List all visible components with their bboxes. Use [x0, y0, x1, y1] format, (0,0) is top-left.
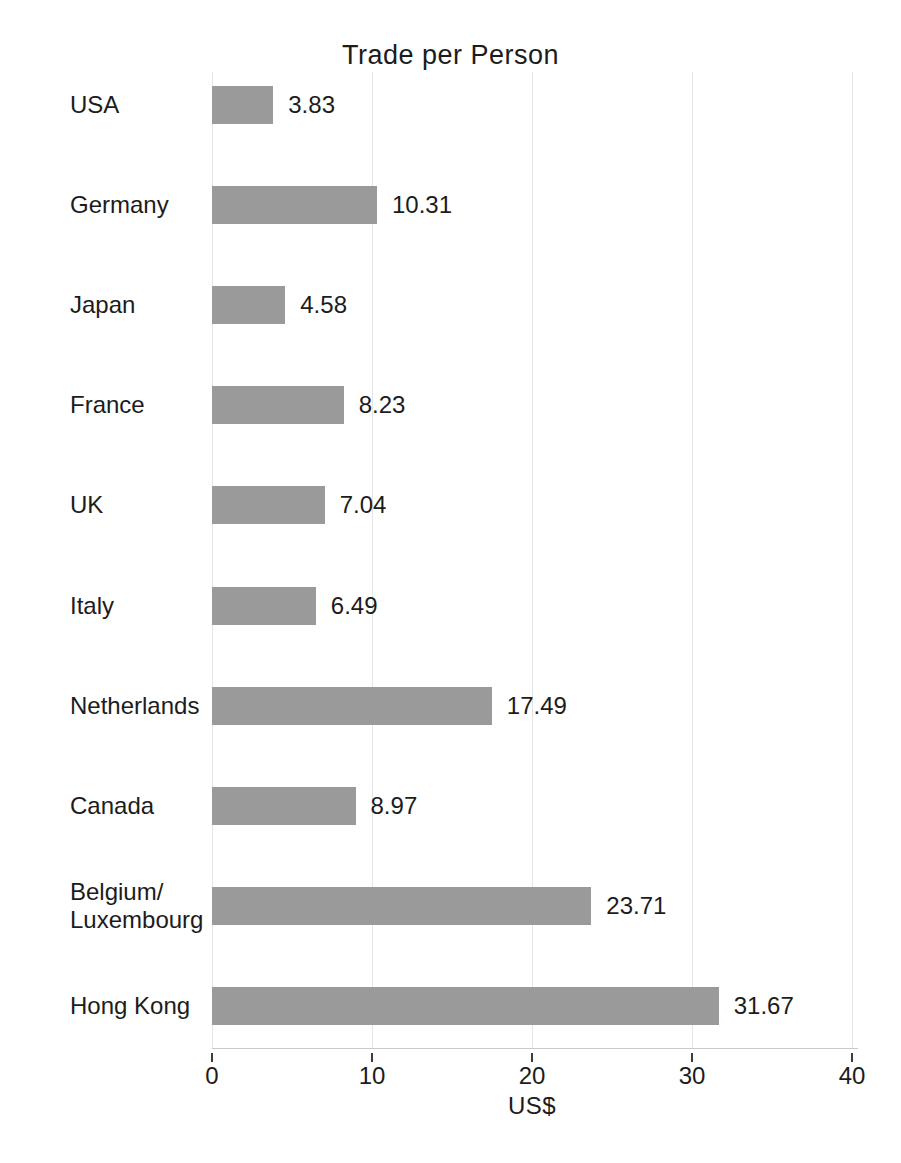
value-label: 31.67 [734, 987, 794, 1025]
category-label: Belgium/ Luxembourg [70, 878, 203, 934]
category-label: France [70, 391, 145, 419]
category-label: Italy [70, 592, 114, 620]
category-label: USA [70, 91, 119, 119]
value-label: 10.31 [392, 186, 452, 224]
gridline-x-40 [852, 72, 853, 1048]
x-tick-label: 20 [492, 1062, 572, 1090]
x-tick-label: 40 [812, 1062, 892, 1090]
bar-chart-figure: Trade per Person USA3.83Germany10.31Japa… [0, 0, 901, 1163]
bar [212, 286, 285, 324]
bar [212, 86, 273, 124]
category-label: Japan [70, 291, 135, 319]
category-label: Canada [70, 792, 154, 820]
value-label: 8.97 [371, 787, 418, 825]
bar [212, 687, 492, 725]
bar [212, 486, 325, 524]
value-label: 7.04 [340, 486, 387, 524]
category-label: Netherlands [70, 692, 199, 720]
gridline-x-30 [692, 72, 693, 1048]
x-tick-label: 0 [172, 1062, 252, 1090]
category-label: Germany [70, 191, 169, 219]
x-axis-line [212, 1048, 858, 1049]
value-label: 23.71 [606, 887, 666, 925]
bar [212, 887, 591, 925]
x-tick-mark [691, 1053, 693, 1062]
value-label: 8.23 [359, 386, 406, 424]
bar [212, 587, 316, 625]
x-tick-label: 30 [652, 1062, 732, 1090]
bar [212, 987, 719, 1025]
value-label: 3.83 [288, 86, 335, 124]
chart-title: Trade per Person [0, 40, 901, 71]
x-tick-mark [531, 1053, 533, 1062]
bar [212, 386, 344, 424]
bar [212, 186, 377, 224]
value-label: 17.49 [507, 687, 567, 725]
category-label: Hong Kong [70, 992, 190, 1020]
x-axis-title: US$ [472, 1092, 592, 1120]
value-label: 6.49 [331, 587, 378, 625]
category-label: UK [70, 491, 103, 519]
value-label: 4.58 [300, 286, 347, 324]
x-tick-mark [211, 1053, 213, 1062]
x-tick-mark [851, 1053, 853, 1062]
x-tick-mark [371, 1053, 373, 1062]
bar [212, 787, 356, 825]
x-tick-label: 10 [332, 1062, 412, 1090]
